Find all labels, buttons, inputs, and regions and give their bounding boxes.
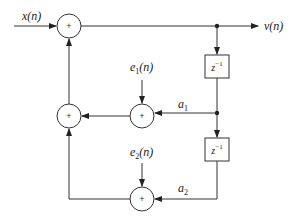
diagram-wires [0, 0, 291, 221]
adder-top-symbol: + [66, 22, 71, 31]
output-label: v(n) [264, 20, 283, 32]
coef1-sub: 1 [184, 104, 188, 113]
block-diagram: + + + + z−1 z−1 x(n) v(n) e1(n) e2(n) a1… [0, 0, 291, 221]
coef1-label: a1 [178, 98, 188, 113]
delay1-exp: −1 [215, 60, 222, 68]
bottom-to-left-wire [69, 129, 130, 199]
delay1-label: z−1 [211, 61, 222, 72]
junction-mid [215, 111, 219, 115]
noise1-label: e1(n) [130, 61, 153, 76]
noise1-arg: (n) [139, 60, 153, 74]
delay2-exp: −1 [215, 143, 222, 151]
adder-left-mid-symbol: + [66, 112, 71, 121]
delay2-label: z−1 [211, 144, 222, 155]
adder-mid-symbol: + [139, 112, 144, 121]
junction-top [215, 24, 219, 28]
adder-bottom-symbol: + [139, 195, 144, 204]
coef2-sub: 2 [184, 188, 188, 197]
noise2-arg: (n) [139, 145, 153, 159]
input-label: x(n) [22, 10, 41, 22]
noise2-label: e2(n) [130, 146, 153, 161]
coef2-label: a2 [178, 182, 188, 197]
